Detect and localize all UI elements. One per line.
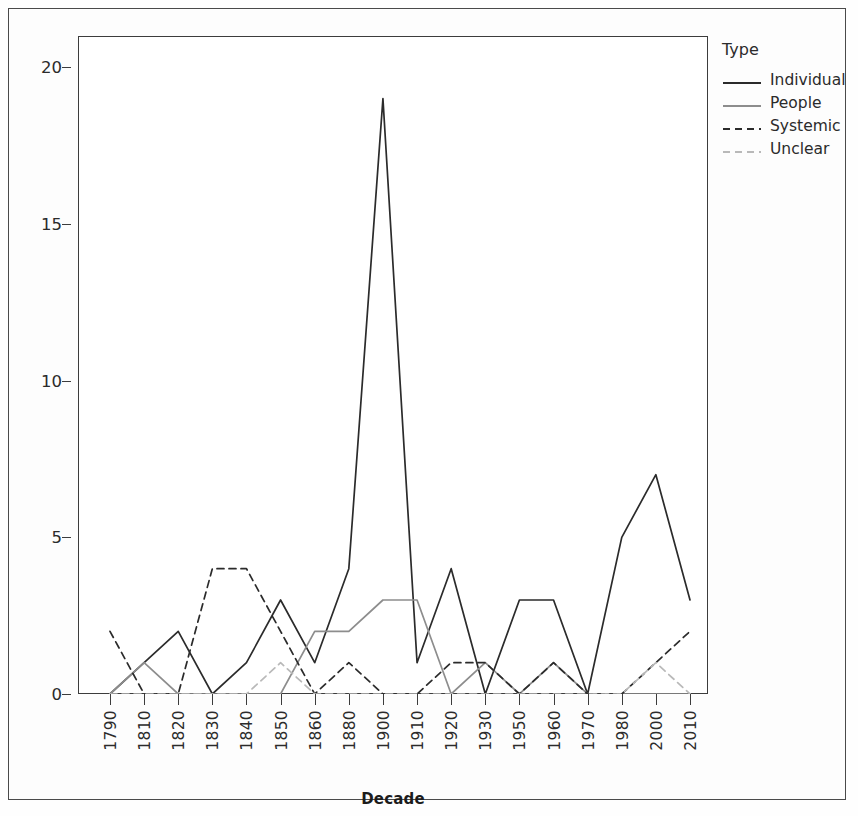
chart-page: 05101520 1790181018201830184018501860188… bbox=[0, 0, 858, 816]
x-tick-label: 1820 bbox=[170, 710, 188, 751]
x-axis: 1790181018201830184018501860188019001910… bbox=[78, 694, 708, 804]
x-tick-label: 2000 bbox=[648, 710, 666, 751]
x-tick-mark bbox=[110, 694, 111, 705]
x-tick-mark bbox=[178, 694, 179, 705]
x-tick-mark bbox=[315, 694, 316, 705]
series-line-people bbox=[110, 600, 690, 694]
x-tick-label: 1960 bbox=[546, 710, 564, 751]
x-tick-mark bbox=[212, 694, 213, 705]
x-axis-title: Decade bbox=[78, 790, 708, 808]
legend-swatch-icon bbox=[722, 120, 762, 132]
series-line-individual bbox=[110, 99, 690, 694]
x-tick-mark bbox=[622, 694, 623, 705]
x-tick-mark bbox=[554, 694, 555, 705]
x-tick-mark bbox=[246, 694, 247, 705]
y-tick-label: 0 bbox=[7, 685, 62, 704]
legend-label: People bbox=[770, 94, 822, 112]
x-tick-label: 1970 bbox=[580, 710, 598, 751]
x-tick-label: 1840 bbox=[238, 710, 256, 751]
line-chart-plot bbox=[78, 36, 708, 694]
x-tick-label: 1860 bbox=[307, 710, 325, 751]
y-tick-label: 5 bbox=[7, 528, 62, 547]
y-tick-label: 10 bbox=[7, 371, 62, 390]
x-tick-mark bbox=[281, 694, 282, 705]
legend-swatch-icon bbox=[722, 97, 762, 109]
x-tick-mark bbox=[485, 694, 486, 705]
legend-label: Systemic bbox=[770, 117, 841, 135]
legend-item-unclear: Unclear bbox=[722, 137, 852, 160]
y-tick-label: 20 bbox=[7, 58, 62, 77]
y-axis: 05101520 bbox=[0, 36, 62, 694]
y-tick-mark bbox=[62, 537, 71, 538]
x-tick-mark bbox=[349, 694, 350, 705]
x-tick-label: 1810 bbox=[136, 710, 154, 751]
x-tick-mark bbox=[656, 694, 657, 705]
legend-item-systemic: Systemic bbox=[722, 114, 852, 137]
legend-label: Unclear bbox=[770, 140, 829, 158]
series-line-systemic bbox=[110, 569, 690, 694]
y-tick-mark bbox=[62, 67, 71, 68]
x-tick-label: 1950 bbox=[511, 710, 529, 751]
x-tick-label: 1900 bbox=[375, 710, 393, 751]
x-tick-mark bbox=[519, 694, 520, 705]
legend-title: Type bbox=[722, 40, 852, 59]
legend-item-individual: Individual bbox=[722, 68, 852, 91]
x-tick-label: 1880 bbox=[341, 710, 359, 751]
legend-swatch-icon bbox=[722, 143, 762, 155]
y-tick-mark bbox=[62, 224, 71, 225]
y-tick-mark bbox=[62, 694, 71, 695]
x-tick-mark bbox=[383, 694, 384, 705]
legend: Type IndividualPeopleSystemicUnclear bbox=[722, 40, 852, 160]
x-tick-mark bbox=[451, 694, 452, 705]
x-tick-label: 1850 bbox=[273, 710, 291, 751]
x-tick-label: 1920 bbox=[443, 710, 461, 751]
x-tick-mark bbox=[690, 694, 691, 705]
x-tick-mark bbox=[588, 694, 589, 705]
x-tick-label: 2010 bbox=[682, 710, 700, 751]
legend-swatch-icon bbox=[722, 74, 762, 86]
y-tick-mark bbox=[62, 381, 71, 382]
x-tick-label: 1790 bbox=[102, 710, 120, 751]
x-tick-label: 1980 bbox=[614, 710, 632, 751]
legend-item-people: People bbox=[722, 91, 852, 114]
x-tick-label: 1910 bbox=[409, 710, 427, 751]
x-tick-mark bbox=[417, 694, 418, 705]
x-tick-mark bbox=[144, 694, 145, 705]
y-tick-label: 15 bbox=[7, 215, 62, 234]
x-tick-label: 1830 bbox=[204, 710, 222, 751]
x-tick-label: 1930 bbox=[477, 710, 495, 751]
legend-label: Individual bbox=[770, 71, 846, 89]
